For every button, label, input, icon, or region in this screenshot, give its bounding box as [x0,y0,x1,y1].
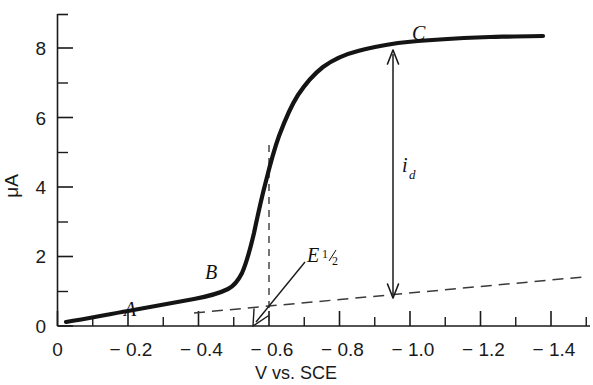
label-ehalf-base: E [306,244,319,266]
polarogram-figure: 8 6 4 2 0 0 − 0.2 − 0.4 − 0.6 − 0.8 − 1.… [0,0,593,385]
chart-svg: 8 6 4 2 0 0 − 0.2 − 0.4 − 0.6 − 0.8 − 1.… [0,0,593,385]
y-tick-label-8: 8 [35,38,46,59]
y-tick-label-2: 2 [35,246,46,267]
y-axis-title: μA [1,174,22,198]
label-c: C [412,22,426,44]
label-id-base: i [402,154,408,176]
label-ehalf-numerator: 1 [322,247,328,261]
label-ehalf-denominator: 2 [332,254,338,268]
label-a: A [122,298,137,320]
label-id: i d [402,154,416,182]
diffusion-current-arrow [388,50,399,298]
x-axis-title: V vs. SCE [255,363,337,383]
x-tick-label-m02: − 0.2 [110,339,153,360]
label-b: B [205,261,217,283]
x-axis [58,311,591,326]
x-tick-label-m12: − 1.2 [462,339,505,360]
label-ehalf: E 1 2 [306,244,338,268]
polarogram-curve [66,36,543,322]
label-id-subscript: d [409,167,416,182]
y-axis [58,14,74,326]
y-tick-label-6: 6 [35,108,46,129]
x-tick-label-m04: − 0.4 [180,339,223,360]
half-wave-pointer [253,262,305,326]
x-tick-label-m10: − 1.0 [392,339,435,360]
y-tick-label-4: 4 [35,177,46,198]
x-tick-label-m08: − 0.8 [321,339,364,360]
y-tick-label-0: 0 [35,316,46,337]
x-tick-label-m06: − 0.6 [251,339,294,360]
x-tick-label-0: 0 [52,339,63,360]
x-tick-label-m14: − 1.4 [533,339,576,360]
residual-current-line [194,277,583,313]
